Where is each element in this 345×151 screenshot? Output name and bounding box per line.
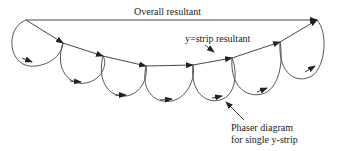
strip-resultant-pointer — [205, 45, 214, 52]
strip-phasor-arcs — [12, 20, 324, 102]
phaser-label-line1: Phaser diagram — [231, 122, 293, 133]
phaser-label-line2: for single y-strip — [231, 134, 298, 145]
phasor-diagram: Overall resultant y=strip resultant Phas… — [0, 0, 345, 151]
arc-direction-arrows — [22, 58, 315, 100]
phaser-pointer — [226, 102, 244, 120]
overall-resultant-label: Overall resultant — [134, 6, 201, 17]
strip-resultant-label: y=strip resultant — [185, 33, 251, 44]
strip-resultant-chords — [26, 20, 317, 66]
